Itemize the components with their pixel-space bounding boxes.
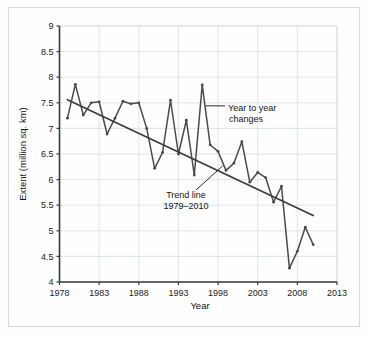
- x-axis-ticks: 19781983198819931998200320082013: [49, 282, 347, 298]
- y-tick-label: 4.5: [41, 252, 54, 262]
- data-point: [201, 83, 204, 86]
- x-tick-label: 1978: [49, 288, 69, 298]
- annotation-year-to-year-line1: Year to year: [228, 103, 276, 113]
- data-point: [153, 167, 156, 170]
- x-tick-label: 1983: [89, 288, 109, 298]
- data-point: [137, 101, 140, 104]
- data-point: [66, 117, 69, 120]
- annotation-trend-line2: 1979–2010: [163, 201, 208, 211]
- y-tick-label: 4: [48, 277, 53, 287]
- data-point: [233, 162, 236, 165]
- data-point: [240, 140, 243, 143]
- x-tick-label: 1988: [129, 288, 149, 298]
- y-axis-ticks: 44.555.566.577.588.59: [41, 21, 60, 287]
- chart-figure: 44.555.566.577.588.59 197819831988199319…: [0, 0, 369, 337]
- y-tick-label: 6.5: [41, 149, 54, 159]
- data-point: [280, 185, 283, 188]
- data-point: [90, 101, 93, 104]
- data-point: [312, 243, 315, 246]
- data-point: [272, 201, 275, 204]
- y-tick-label: 8.5: [41, 47, 54, 57]
- data-point: [98, 100, 101, 103]
- data-series-line: [67, 84, 313, 268]
- data-point: [161, 151, 164, 154]
- data-point: [185, 119, 188, 122]
- annotation-leader-lines: [196, 106, 225, 190]
- data-point: [106, 133, 109, 136]
- x-tick-label: 2008: [287, 288, 307, 298]
- y-tick-label: 6: [48, 175, 53, 185]
- data-point: [145, 127, 148, 130]
- data-point: [169, 99, 172, 102]
- x-tick-label: 2003: [248, 288, 268, 298]
- x-tick-label: 1998: [208, 288, 228, 298]
- y-tick-label: 7: [48, 124, 53, 134]
- line-chart: 44.555.566.577.588.59 197819831988199319…: [0, 0, 369, 337]
- x-tick-label: 1993: [168, 288, 188, 298]
- y-tick-label: 5: [48, 226, 53, 236]
- trend-line-leader-line: [196, 166, 223, 190]
- data-point: [225, 169, 228, 172]
- data-point: [74, 83, 77, 86]
- data-point: [288, 267, 291, 270]
- data-point: [209, 143, 212, 146]
- x-tick-label: 2013: [327, 288, 347, 298]
- data-point: [256, 171, 259, 174]
- x-axis-title: Year: [190, 300, 209, 311]
- y-tick-label: 7.5: [41, 98, 54, 108]
- data-point: [304, 226, 307, 229]
- data-point: [296, 250, 299, 253]
- annotation-year-to-year-line2: changes: [229, 114, 264, 124]
- data-point: [217, 150, 220, 153]
- y-tick-label: 9: [48, 21, 53, 31]
- y-tick-label: 5.5: [41, 200, 54, 210]
- data-point: [82, 114, 85, 117]
- gridlines: [60, 26, 338, 282]
- annotation-trend-line1: Trend line: [166, 190, 206, 200]
- data-point: [248, 181, 251, 184]
- data-point: [264, 176, 267, 179]
- data-point: [122, 100, 125, 103]
- data-point: [193, 174, 196, 177]
- y-axis-title: Extent (million sq. km): [17, 107, 28, 200]
- data-point: [114, 117, 117, 120]
- data-point-markers: [66, 83, 315, 270]
- y-tick-label: 8: [48, 72, 53, 82]
- data-point: [129, 102, 132, 105]
